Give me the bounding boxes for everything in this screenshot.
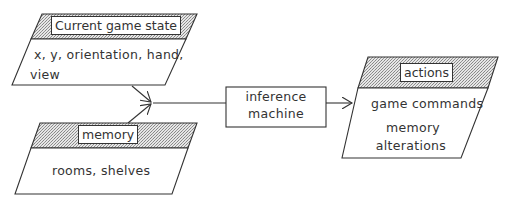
actions-body-line1: game commands (371, 96, 471, 111)
inference-line1: inference (226, 89, 326, 104)
actions-body-line3: alterations (361, 138, 461, 153)
memory-body: rooms, shelves (52, 163, 150, 178)
actions-body-line2: memory (363, 120, 463, 135)
current-state-title: Current game state (51, 16, 181, 35)
actions-title: actions (400, 63, 453, 82)
current-state-body-line1: x, y, orientation, hand, (34, 47, 184, 62)
current-state-body-line2: view (30, 67, 60, 82)
inference-line2: machine (226, 106, 326, 121)
edge-memory-to-junction (128, 104, 151, 123)
memory-title: memory (78, 125, 138, 144)
edge-state-to-junction (132, 86, 151, 102)
